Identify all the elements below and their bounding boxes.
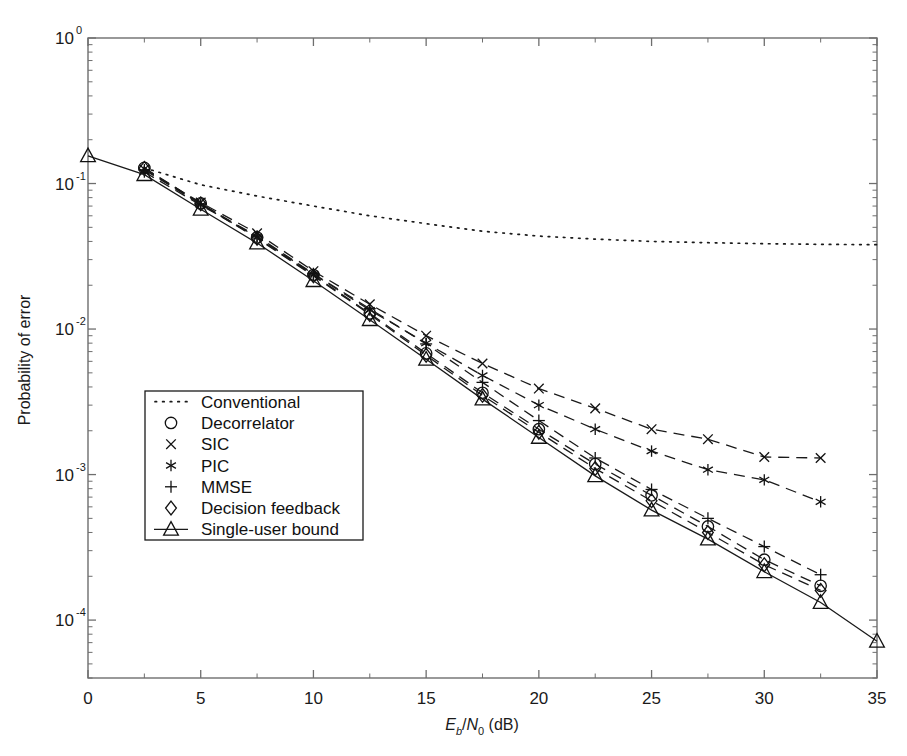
x-tick-label: 0	[83, 689, 92, 708]
chart-canvas: 05101520253035 10010-110-210-310-4 Proba…	[0, 0, 907, 756]
y-tick-label: 10-1	[55, 170, 86, 194]
x-axis-title-unit: (dB)	[484, 716, 519, 733]
y-tick-label-exponent: 0	[76, 24, 82, 36]
y-tick-label-exponent: -1	[76, 170, 86, 182]
x-axis-title-text: Eb/N0 (dB)	[445, 716, 519, 737]
plot-frame	[88, 38, 877, 678]
x-tick-label: 15	[417, 689, 436, 708]
x-axis-ticks	[88, 38, 877, 678]
legend-item-label: PIC	[201, 457, 229, 476]
x-tick-label: 10	[304, 689, 323, 708]
y-tick-label: 10-4	[55, 606, 86, 630]
x-axis-title-n: N	[466, 716, 478, 733]
legend-item-label: MMSE	[201, 478, 252, 497]
x-axis-title: Eb/N0 (dB)	[445, 716, 519, 737]
y-axis-title: Probability of error	[16, 294, 33, 425]
y-axis-tick-labels: 10010-110-210-310-4	[55, 24, 86, 630]
y-tick-label: 10-3	[55, 461, 86, 485]
y-tick-label: 10-2	[55, 315, 86, 339]
y-axis-minor-ticks	[88, 45, 877, 678]
legend-item-label: Decision feedback	[201, 499, 340, 518]
y-tick-label-mantissa: 10	[55, 175, 74, 194]
y-tick-label-mantissa: 10	[55, 320, 74, 339]
legend-item-label: Conventional	[201, 393, 300, 412]
y-tick-label-exponent: -3	[76, 461, 86, 473]
y-axis-title-text: Probability of error	[16, 294, 33, 425]
y-tick-label-mantissa: 10	[55, 466, 74, 485]
y-tick-label-mantissa: 10	[55, 611, 74, 630]
x-tick-label: 20	[529, 689, 548, 708]
chart-legend: ConventionalDecorrelatorSICPICMMSEDecisi…	[145, 391, 363, 540]
x-tick-label: 25	[642, 689, 661, 708]
legend-item-label: Decorrelator	[201, 414, 295, 433]
figure-container: 05101520253035 10010-110-210-310-4 Proba…	[0, 0, 907, 756]
x-tick-label: 35	[868, 689, 887, 708]
x-tick-label: 30	[755, 689, 774, 708]
x-axis-title-e: E	[445, 716, 456, 733]
x-axis-tick-labels: 05101520253035	[83, 689, 886, 708]
legend-item-label: Single-user bound	[201, 520, 339, 539]
x-tick-label: 5	[196, 689, 205, 708]
y-tick-label-exponent: -4	[76, 606, 86, 618]
y-tick-label-mantissa: 10	[55, 29, 74, 48]
y-tick-label: 100	[55, 24, 82, 48]
y-tick-label-exponent: -2	[76, 315, 86, 327]
x-axis-minor-ticks	[144, 38, 820, 678]
legend-item-label: SIC	[201, 435, 229, 454]
